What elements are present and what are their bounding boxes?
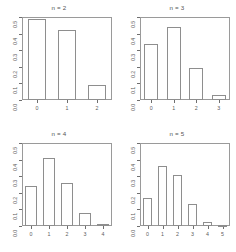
y-axis-label: 0.2 — [12, 70, 18, 77]
y-axis-tick — [19, 67, 22, 68]
x-axis-tick — [219, 100, 220, 103]
x-axis-label: 1 — [161, 231, 164, 237]
y-axis-label: 0.5 — [12, 147, 18, 154]
x-axis-label: 2 — [96, 105, 99, 111]
x-axis-tick — [151, 100, 152, 103]
x-axis-label: 3 — [84, 231, 87, 237]
y-axis-tick — [137, 67, 140, 68]
x-axis-tick — [163, 226, 164, 229]
bar — [43, 158, 54, 226]
y-axis-tick — [19, 176, 22, 177]
bar — [79, 213, 90, 226]
x-axis-label: 0 — [30, 231, 33, 237]
x-axis-tick — [193, 226, 194, 229]
x-axis-tick — [103, 226, 104, 229]
bar — [88, 85, 107, 100]
x-axis-tick — [37, 100, 38, 103]
bar — [212, 95, 226, 100]
y-axis-tick — [19, 34, 22, 35]
bar — [188, 204, 197, 226]
y-axis-label: 0.5 — [12, 21, 18, 28]
bar — [143, 198, 152, 226]
y-axis-tick — [19, 17, 22, 18]
x-axis-label: 4 — [206, 231, 209, 237]
x-axis-label: 0 — [146, 231, 149, 237]
x-axis: 01234 — [0, 226, 118, 252]
y-axis-label: 0.1 — [130, 87, 136, 94]
bar — [167, 27, 181, 100]
x-axis-tick — [97, 100, 98, 103]
bar — [203, 222, 212, 226]
y-axis-tick — [137, 209, 140, 210]
y-axis-label: 0.5 — [130, 147, 136, 154]
plot-frame — [140, 143, 230, 226]
y-axis-label: 0.4 — [130, 163, 136, 170]
y-axis-label: 0.3 — [12, 54, 18, 61]
panel-n4: n = 40.00.10.20.30.40.501234 — [0, 126, 118, 252]
y-axis-label: 0.3 — [12, 180, 18, 187]
y-axis-label: 0.1 — [12, 87, 18, 94]
y-axis-label: 0.1 — [130, 213, 136, 220]
y-axis-label: 0.2 — [12, 196, 18, 203]
x-axis-tick — [208, 226, 209, 229]
y-axis-tick — [19, 83, 22, 84]
x-axis: 012 — [0, 100, 118, 126]
x-axis-label: 1 — [48, 231, 51, 237]
y-axis-tick — [137, 17, 140, 18]
x-axis-label: 0 — [150, 105, 153, 111]
y-axis-label: 0.4 — [12, 163, 18, 170]
x-axis-label: 3 — [191, 231, 194, 237]
x-axis-label: 2 — [195, 105, 198, 111]
bar — [58, 30, 77, 100]
bar — [25, 186, 36, 226]
plot-grid: n = 20.00.10.20.30.40.5012 n = 30.00.10.… — [0, 0, 236, 252]
x-axis-label: 0 — [36, 105, 39, 111]
x-axis-label: 1 — [66, 105, 69, 111]
y-axis-label: 0.4 — [12, 37, 18, 44]
y-axis-tick — [137, 50, 140, 51]
bar — [158, 166, 167, 226]
y-axis-label: 0.2 — [130, 70, 136, 77]
x-axis-label: 5 — [221, 231, 224, 237]
x-axis-tick — [148, 226, 149, 229]
x-axis-label: 2 — [176, 231, 179, 237]
y-axis-tick — [137, 143, 140, 144]
y-axis-tick — [19, 193, 22, 194]
x-axis-tick — [174, 100, 175, 103]
x-axis-label: 1 — [172, 105, 175, 111]
bar — [218, 225, 227, 227]
y-axis-label: 0.1 — [12, 213, 18, 220]
x-axis: 012345 — [118, 226, 236, 252]
y-axis-label: 0.3 — [130, 180, 136, 187]
bar — [173, 175, 182, 226]
panel-n2: n = 20.00.10.20.30.40.5012 — [0, 0, 118, 126]
y-axis-tick — [137, 176, 140, 177]
panel-n3: n = 30.00.10.20.30.40.50123 — [118, 0, 236, 126]
x-axis: 0123 — [118, 100, 236, 126]
x-axis-label: 3 — [217, 105, 220, 111]
x-axis-tick — [31, 226, 32, 229]
bar — [61, 183, 72, 226]
panel-n5: n = 50.00.10.20.30.40.5012345 — [118, 126, 236, 252]
x-axis-tick — [178, 226, 179, 229]
x-axis-tick — [196, 100, 197, 103]
bar — [144, 44, 158, 100]
y-axis-label: 0.3 — [130, 54, 136, 61]
bar — [97, 224, 108, 226]
y-axis-tick — [137, 160, 140, 161]
y-axis-tick — [137, 34, 140, 35]
y-axis-label: 0.4 — [130, 37, 136, 44]
y-axis-label: 0.2 — [130, 196, 136, 203]
bar — [189, 68, 203, 100]
y-axis-tick — [19, 209, 22, 210]
y-axis-tick — [19, 50, 22, 51]
y-axis-tick — [137, 193, 140, 194]
x-axis-tick — [67, 226, 68, 229]
y-axis-tick — [19, 160, 22, 161]
x-axis-tick — [85, 226, 86, 229]
x-axis-tick — [49, 226, 50, 229]
bar — [28, 19, 47, 100]
y-axis-tick — [19, 143, 22, 144]
y-axis-tick — [137, 83, 140, 84]
x-axis-tick — [67, 100, 68, 103]
